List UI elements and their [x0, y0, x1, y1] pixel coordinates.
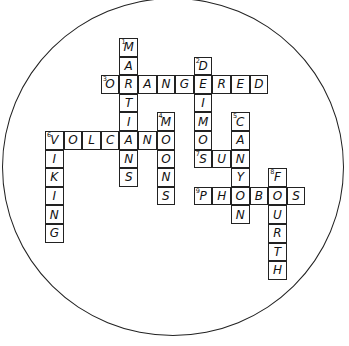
cell-letter: S [162, 189, 170, 203]
crossword-cell[interactable]: T [119, 94, 138, 113]
crossword-cell[interactable]: N [231, 150, 250, 169]
crossword-cell[interactable]: M [194, 112, 213, 131]
cell-letter: Y [237, 170, 244, 184]
crossword-cell[interactable]: R [212, 75, 231, 94]
cell-letter: U [273, 208, 282, 222]
crossword-cell[interactable]: A [231, 131, 250, 150]
cell-letter: G [50, 226, 59, 240]
cell-letter: N [236, 208, 245, 222]
cell-letter: A [143, 77, 151, 91]
crossword-cell[interactable]: N [45, 205, 64, 224]
cell-letter: H [217, 189, 226, 203]
crossword-cell[interactable]: L [82, 131, 101, 150]
cell-letter: C [106, 133, 114, 147]
crossword-cell[interactable]: C [101, 131, 120, 150]
crossword-cell[interactable]: O [64, 131, 83, 150]
cell-letter: O [161, 152, 170, 166]
cell-letter: I [127, 115, 131, 129]
crossword-cell[interactable]: R [119, 75, 138, 94]
cell-letter: R [218, 77, 226, 91]
cell-letter: N [124, 152, 133, 166]
cell-letter: R [273, 226, 281, 240]
crossword-cell[interactable]: K [45, 168, 64, 187]
crossword-cell[interactable]: E [231, 75, 250, 94]
crossword-cell[interactable]: U [212, 150, 231, 169]
cell-letter: M [198, 115, 208, 129]
clue-number: 1 [121, 39, 125, 46]
crossword-cell[interactable]: O [231, 187, 250, 206]
clue-number: 5 [233, 113, 237, 120]
crossword-cell[interactable]: S [119, 168, 138, 187]
crossword-cell[interactable]: D [250, 75, 269, 94]
crossword-cell[interactable]: O [194, 131, 213, 150]
crossword-cell[interactable]: H [212, 187, 231, 206]
crossword-cell[interactable]: T [268, 243, 287, 262]
cell-letter: O [236, 189, 245, 203]
cell-letter: O [198, 133, 207, 147]
crossword-cell[interactable]: O [157, 131, 176, 150]
crossword-cell[interactable]: N [119, 150, 138, 169]
crossword-cell[interactable]: 9P [194, 187, 213, 206]
cell-letter: S [199, 152, 207, 166]
cell-letter: T [274, 245, 281, 259]
crossword-cell[interactable]: 3O [101, 75, 120, 94]
cell-letter: N [50, 208, 59, 222]
cell-letter: I [201, 96, 205, 110]
cell-letter: N [236, 152, 245, 166]
cell-letter: K [50, 170, 58, 184]
cell-letter: L [88, 133, 95, 147]
crossword-cell[interactable]: R [268, 224, 287, 243]
crossword-cell[interactable]: G [175, 75, 194, 94]
crossword-cell[interactable]: 2D [194, 57, 213, 76]
crossword-cell[interactable]: A [119, 57, 138, 76]
cell-letter: O [68, 133, 77, 147]
crossword-cell[interactable]: H [268, 261, 287, 280]
crossword-cell[interactable]: O [268, 187, 287, 206]
clue-number: 7 [196, 151, 200, 158]
cell-letter: P [199, 189, 206, 203]
crossword-cell[interactable]: B [250, 187, 269, 206]
crossword-cell[interactable]: U [268, 205, 287, 224]
crossword-cell[interactable]: 8F [268, 168, 287, 187]
crossword-cell[interactable]: 5C [231, 112, 250, 131]
crossword-cell[interactable]: A [119, 131, 138, 150]
crossword-grid: 1MARTIANS2DEIMO7S3OANGRED4MOONS5CANYON6V… [0, 0, 349, 346]
cell-letter: O [161, 133, 170, 147]
crossword-cell[interactable]: G [45, 224, 64, 243]
crossword-cell[interactable]: 1M [119, 38, 138, 57]
clue-number: 3 [103, 76, 107, 83]
crossword-cell[interactable]: S [157, 187, 176, 206]
cell-letter: G [180, 77, 189, 91]
cell-letter: A [125, 133, 133, 147]
cell-letter: C [236, 115, 244, 129]
cell-letter: D [254, 77, 263, 91]
crossword-cell[interactable]: O [157, 150, 176, 169]
crossword-cell[interactable]: A [138, 75, 157, 94]
cell-letter: F [274, 170, 281, 184]
crossword-cell[interactable]: Y [231, 168, 250, 187]
cell-letter: N [143, 133, 152, 147]
crossword-cell[interactable]: E [194, 75, 213, 94]
cell-letter: T [125, 96, 132, 110]
cell-letter: E [199, 77, 207, 91]
crossword-cell[interactable]: 6V [45, 131, 64, 150]
crossword-cell[interactable]: I [45, 150, 64, 169]
cell-letter: S [125, 170, 133, 184]
crossword-cell[interactable]: N [138, 131, 157, 150]
crossword-cell[interactable]: 7S [194, 150, 213, 169]
cell-letter: N [161, 77, 170, 91]
crossword-cell[interactable]: I [119, 112, 138, 131]
cell-letter: U [217, 152, 226, 166]
crossword-cell[interactable]: I [194, 94, 213, 113]
cell-letter: E [237, 77, 245, 91]
crossword-cell[interactable]: I [45, 187, 64, 206]
cell-letter: A [125, 59, 133, 73]
crossword-cell[interactable]: N [231, 205, 250, 224]
cell-letter: N [161, 170, 170, 184]
crossword-cell[interactable]: N [157, 168, 176, 187]
cell-letter: V [50, 133, 58, 147]
crossword-cell[interactable]: N [157, 75, 176, 94]
clue-number: 2 [196, 58, 200, 65]
crossword-cell[interactable]: S [287, 187, 306, 206]
crossword-cell[interactable]: 4M [157, 112, 176, 131]
